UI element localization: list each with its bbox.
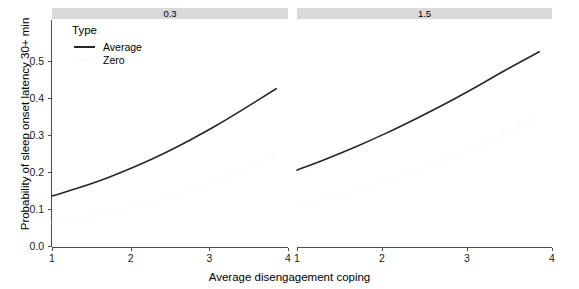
y-axis-tick-label: 0.5 bbox=[18, 55, 44, 67]
x-axis-tick-label: 3 bbox=[206, 252, 212, 264]
facet-strip-label: 1.5 bbox=[297, 8, 552, 19]
y-axis-tick-mark bbox=[48, 209, 51, 210]
x-axis-tick-mark bbox=[297, 248, 298, 251]
facet-strip-label: 0.3 bbox=[52, 8, 288, 19]
y-axis-tick-label: 0.1 bbox=[18, 203, 44, 215]
x-axis-tick-label: 2 bbox=[128, 252, 134, 264]
legend: TypeAverageZero bbox=[72, 24, 142, 66]
y-axis-tick-mark bbox=[48, 172, 51, 173]
x-axis-line bbox=[297, 247, 552, 248]
legend-item-label: Average bbox=[103, 41, 142, 53]
x-axis-tick-label: 4 bbox=[285, 252, 291, 264]
x-axis-tick-mark bbox=[382, 248, 383, 251]
x-axis-tick-mark bbox=[209, 248, 210, 251]
x-axis-line bbox=[52, 247, 288, 248]
y-axis-tick-label: 0.2 bbox=[18, 166, 44, 178]
legend-key-line-icon bbox=[72, 53, 97, 66]
y-axis-tick-label: 0.3 bbox=[18, 129, 44, 141]
legend-key-line-icon bbox=[72, 40, 97, 53]
y-axis-tick-mark bbox=[48, 61, 51, 62]
y-axis-tick-mark bbox=[48, 135, 51, 136]
x-axis-tick-label: 1 bbox=[49, 252, 55, 264]
x-axis-tick-mark bbox=[552, 248, 553, 251]
legend-item-label: Zero bbox=[103, 54, 125, 66]
legend-item[interactable]: Zero bbox=[72, 53, 142, 66]
y-axis-tick-mark bbox=[48, 246, 51, 247]
x-axis-tick-mark bbox=[288, 248, 289, 251]
x-axis-tick-mark bbox=[467, 248, 468, 251]
legend-item[interactable]: Average bbox=[72, 40, 142, 53]
x-axis-tick-mark bbox=[52, 248, 53, 251]
y-axis-line bbox=[51, 20, 52, 247]
chart-figure: Probability of sleep onset latency 30+ m… bbox=[0, 0, 579, 289]
x-axis-tick-label: 2 bbox=[379, 252, 385, 264]
x-axis-tick-label: 4 bbox=[549, 252, 555, 264]
x-axis-tick-label: 1 bbox=[294, 252, 300, 264]
x-axis-tick-label: 3 bbox=[464, 252, 470, 264]
y-axis-tick-label: 0.0 bbox=[18, 240, 44, 252]
x-axis-tick-mark bbox=[131, 248, 132, 251]
legend-title: Type bbox=[72, 24, 142, 36]
y-axis-tick-label: 0.4 bbox=[18, 92, 44, 104]
y-axis-tick-mark bbox=[48, 98, 51, 99]
